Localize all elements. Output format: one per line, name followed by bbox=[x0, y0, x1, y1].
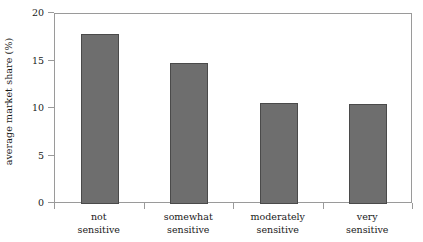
x-axis-label: verysensitive bbox=[323, 211, 413, 236]
x-axis-label-line1: very bbox=[323, 211, 413, 224]
bar bbox=[260, 103, 298, 204]
x-tick-mark bbox=[144, 203, 145, 209]
x-tick-mark bbox=[412, 203, 413, 209]
y-tick-20: 20 bbox=[0, 7, 54, 19]
y-tick-label: 10 bbox=[14, 102, 44, 114]
bar-chart: average market share (%) 05101520 notsen… bbox=[0, 0, 423, 242]
x-axis-label: notsensitive bbox=[54, 211, 144, 236]
x-axis-label-line1: moderately bbox=[233, 211, 323, 224]
bar bbox=[81, 34, 119, 204]
y-tick-5: 5 bbox=[0, 150, 54, 162]
x-axis-label-line2: sensitive bbox=[233, 224, 323, 237]
bar bbox=[349, 104, 387, 204]
x-axis-label-line2: sensitive bbox=[144, 224, 234, 237]
y-tick-0: 0 bbox=[0, 197, 54, 209]
y-tick-10: 10 bbox=[0, 102, 54, 114]
x-tick-mark bbox=[233, 203, 234, 209]
x-axis-label-line1: not bbox=[54, 211, 144, 224]
x-axis-label-line2: sensitive bbox=[323, 224, 413, 237]
x-tick-mark bbox=[323, 203, 324, 209]
x-tick-mark bbox=[54, 203, 55, 209]
x-axis-label-line1: somewhat bbox=[144, 211, 234, 224]
y-tick-label: 5 bbox=[14, 150, 44, 162]
y-tick-15: 15 bbox=[0, 55, 54, 67]
x-axis-label: somewhatsensitive bbox=[144, 211, 234, 236]
x-axis-label: moderatelysensitive bbox=[233, 211, 323, 236]
y-tick-label: 0 bbox=[14, 197, 44, 209]
y-tick-label: 20 bbox=[14, 7, 44, 19]
bar bbox=[170, 63, 208, 204]
plot-area bbox=[54, 13, 412, 203]
y-tick-label: 15 bbox=[14, 55, 44, 67]
x-axis-label-line2: sensitive bbox=[54, 224, 144, 237]
